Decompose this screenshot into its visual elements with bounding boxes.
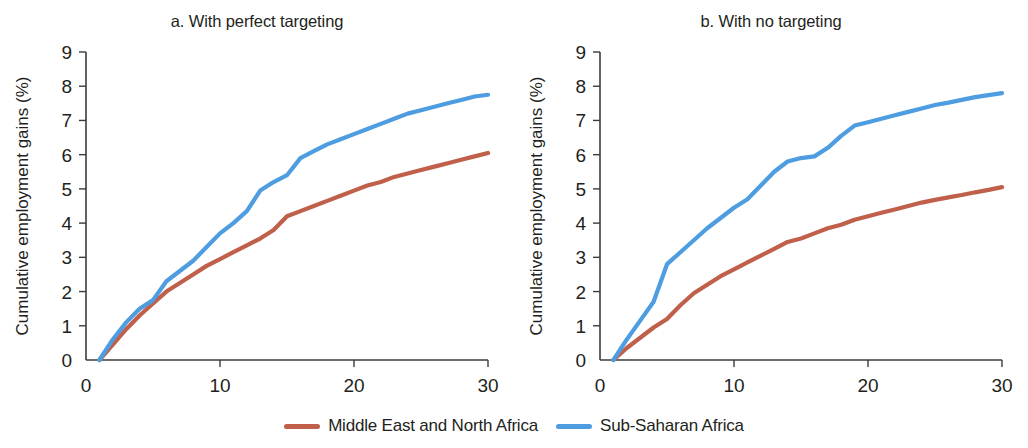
y-tick-label: 3 <box>575 247 586 268</box>
y-tick-label: 6 <box>575 145 586 166</box>
legend-item-mena: Middle East and North Africa <box>284 416 538 436</box>
y-tick-label: 5 <box>575 179 586 200</box>
chart-panel-a: a. With perfect targeting 01234567890102… <box>0 0 514 400</box>
x-tick-label: 10 <box>209 375 230 396</box>
y-tick-label: 4 <box>575 213 586 234</box>
panel-a-plot: 01234567890102030YearCumulative employme… <box>0 0 514 400</box>
x-tick-label: 0 <box>81 375 92 396</box>
legend-label-ssa: Sub-Saharan Africa <box>600 416 744 436</box>
chart-panels: a. With perfect targeting 01234567890102… <box>0 0 1028 400</box>
y-tick-label: 0 <box>61 350 72 371</box>
y-tick-label: 2 <box>61 282 72 303</box>
y-tick-label: 7 <box>575 110 586 131</box>
y-tick-label: 7 <box>61 110 72 131</box>
y-tick-label: 0 <box>575 350 586 371</box>
series-line-ssa <box>99 95 488 360</box>
x-tick-label: 20 <box>857 375 878 396</box>
y-tick-label: 8 <box>575 76 586 97</box>
series-line-mena <box>99 153 488 360</box>
y-tick-label: 3 <box>61 247 72 268</box>
x-tick-label: 0 <box>595 375 606 396</box>
y-tick-label: 5 <box>61 179 72 200</box>
figure-container: a. With perfect targeting 01234567890102… <box>0 0 1028 448</box>
y-tick-label: 8 <box>61 76 72 97</box>
panel-b-plot: 01234567890102030YearCumulative employme… <box>514 0 1028 400</box>
x-tick-label: 30 <box>477 375 498 396</box>
y-tick-label: 1 <box>575 316 586 337</box>
y-tick-label: 9 <box>575 42 586 63</box>
y-tick-label: 4 <box>61 213 72 234</box>
series-line-mena <box>613 187 1002 360</box>
y-tick-label: 9 <box>61 42 72 63</box>
y-tick-label: 1 <box>61 316 72 337</box>
legend-label-mena: Middle East and North Africa <box>328 416 538 436</box>
chart-legend: Middle East and North Africa Sub-Saharan… <box>0 404 1028 448</box>
legend-swatch-line-icon <box>556 424 592 429</box>
x-tick-label: 10 <box>723 375 744 396</box>
legend-item-ssa: Sub-Saharan Africa <box>556 416 744 436</box>
chart-panel-b: b. With no targeting 01234567890102030Ye… <box>514 0 1028 400</box>
y-axis-title: Cumulative employment gains (%) <box>527 77 546 336</box>
series-line-ssa <box>613 93 1002 360</box>
y-tick-label: 6 <box>61 145 72 166</box>
legend-swatch-line-icon <box>284 424 320 429</box>
y-axis-title: Cumulative employment gains (%) <box>13 77 32 336</box>
x-tick-label: 30 <box>991 375 1012 396</box>
x-tick-label: 20 <box>343 375 364 396</box>
y-tick-label: 2 <box>575 282 586 303</box>
